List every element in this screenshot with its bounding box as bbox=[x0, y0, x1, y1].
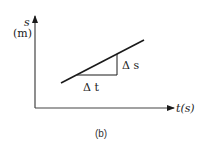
figure-caption: (b) bbox=[95, 128, 107, 139]
x-axis-label: t(s) bbox=[176, 102, 195, 115]
delta-t-label: Δ t bbox=[83, 81, 99, 94]
y-axis-unit: (m) bbox=[13, 27, 32, 40]
position-time-graph: s (m) t(s) Δ t Δ s (b) bbox=[0, 0, 204, 150]
delta-s-label: Δ s bbox=[122, 59, 139, 72]
